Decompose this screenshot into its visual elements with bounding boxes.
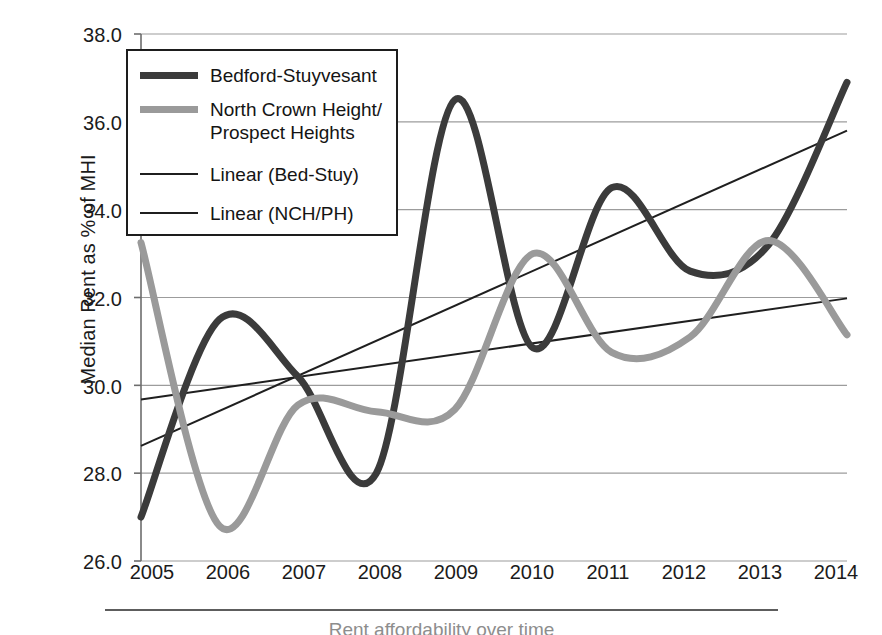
figure-caption: Rent affordability over time (105, 620, 778, 635)
x-tick-label: 2005 (112, 562, 192, 582)
x-tick-label: 2011 (568, 562, 648, 582)
chart-legend: Bedford-Stuyvesant North Crown Height/ P… (126, 49, 398, 236)
legend-swatch-thick-dark-icon (140, 72, 198, 79)
x-tick-label: 2013 (720, 562, 800, 582)
legend-item-linear-nch-ph: Linear (NCH/PH) (128, 198, 396, 228)
legend-item-bedford-stuyvesant: Bedford-Stuyvesant (128, 60, 396, 90)
trendline-trend_nch_ph (141, 298, 847, 399)
x-tick-label: 2009 (416, 562, 496, 582)
x-tick-label: 2007 (264, 562, 344, 582)
legend-item-linear-bed-stuy: Linear (Bed-Stuy) (128, 159, 396, 189)
caption-divider (105, 609, 778, 611)
x-tick-label: 2014 (796, 562, 876, 582)
legend-label: Bedford-Stuyvesant (210, 64, 377, 87)
x-tick-label: 2006 (188, 562, 268, 582)
x-tick-label: 2012 (644, 562, 724, 582)
legend-label: Linear (NCH/PH) (210, 202, 354, 225)
legend-label: Linear (Bed-Stuy) (210, 163, 359, 186)
x-tick-label: 2008 (340, 562, 420, 582)
legend-label: North Crown Height/ Prospect Heights (210, 98, 382, 144)
x-tick-label: 2010 (492, 562, 572, 582)
legend-item-north-crown-height-prospect-heights: North Crown Height/ Prospect Heights (128, 98, 396, 148)
chart-figure: Median Rent as % of MHI 38.0 36.0 34.0 3… (0, 0, 882, 635)
legend-swatch-thin-dark-icon (140, 212, 198, 214)
legend-swatch-thick-gray-icon (140, 106, 198, 113)
legend-swatch-thin-dark-icon (140, 173, 198, 175)
